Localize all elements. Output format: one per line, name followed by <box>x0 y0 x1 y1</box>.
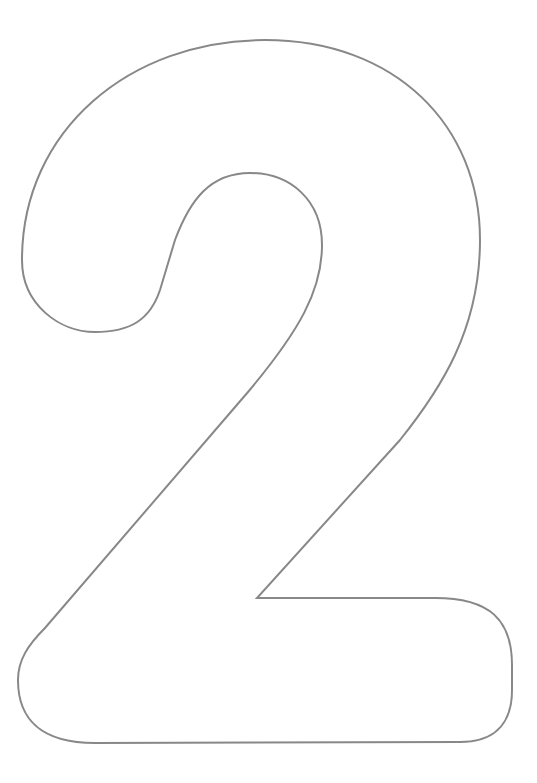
numeral-two-outline-icon <box>0 0 537 783</box>
numeral-two-outline <box>18 40 512 743</box>
